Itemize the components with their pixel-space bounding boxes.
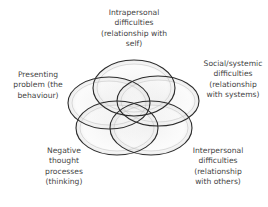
label-line: problem (the [6,80,70,90]
label-negative: Negative thought processes (thinking) [32,146,96,188]
label-intrapersonal: Intrapersonal difficulties (relationship… [90,8,178,50]
label-presenting: Presenting problem (the behaviour) [6,70,70,101]
label-line: processes [32,167,96,177]
label-social: Social/systemic difficulties (relationsh… [200,59,266,101]
label-line: difficulties [181,156,255,166]
label-line: behaviour) [6,91,70,101]
label-line: Negative [32,146,96,156]
label-line: self) [90,39,178,49]
label-line: (relationship [200,80,266,90]
label-line: Interpersonal [181,146,255,156]
label-line: (thinking) [32,177,96,187]
label-interpersonal: Interpersonal difficulties (relationship… [181,146,255,188]
label-line: with others) [181,177,255,187]
label-line: thought [32,156,96,166]
label-line: with systems) [200,90,266,100]
label-line: (relationship with [90,29,178,39]
label-line: Presenting [6,70,70,80]
label-line: difficulties [90,18,178,28]
label-line: Social/systemic [200,59,266,69]
label-line: difficulties [200,69,266,79]
label-line: Intrapersonal [90,8,178,18]
label-line: (relationship [181,167,255,177]
